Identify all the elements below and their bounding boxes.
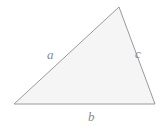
side-label-b: b: [88, 110, 95, 123]
triangle-polygon: [14, 7, 155, 104]
triangle-shape: [0, 0, 166, 131]
side-label-a: a: [47, 48, 54, 61]
side-label-c: c: [135, 47, 141, 60]
triangle-figure: a b c: [0, 0, 166, 131]
